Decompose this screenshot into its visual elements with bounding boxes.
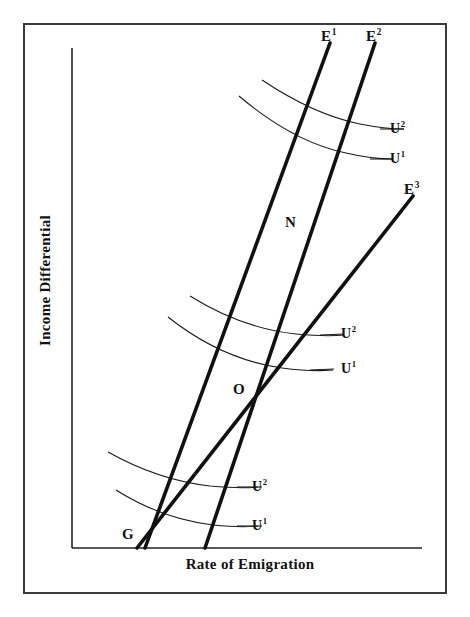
- label-e3: E3: [404, 181, 420, 197]
- label-e2: E2: [366, 28, 382, 44]
- indifference-curves-middle: [168, 296, 344, 371]
- label-e1: E1: [321, 28, 337, 44]
- label-point-o: O: [233, 382, 245, 397]
- label-u2-lower: U2: [252, 478, 267, 494]
- figure-container: Income Differential Rate of Emigration E…: [0, 0, 470, 617]
- label-u1-lower: U1: [252, 517, 267, 533]
- label-u2-upper: U2: [390, 120, 405, 136]
- curve-u1-middle: [168, 317, 333, 371]
- axis-lines: [72, 48, 422, 548]
- emigration-curves: [137, 43, 413, 548]
- label-point-g: G: [122, 527, 134, 542]
- diagram-canvas: [0, 0, 470, 617]
- x-axis-title: Rate of Emigration: [140, 556, 360, 573]
- label-u1-middle: U1: [341, 360, 356, 376]
- curve-u1-lower: [116, 490, 258, 527]
- label-u2-middle: U2: [341, 325, 356, 341]
- line-e3: [137, 196, 413, 548]
- line-e1: [145, 43, 330, 548]
- label-point-n: N: [285, 215, 296, 230]
- line-e2: [205, 43, 375, 548]
- label-u1-upper: U1: [390, 150, 405, 166]
- y-axis-title: Income Differential: [37, 191, 54, 371]
- curve-u2-upper: [262, 80, 404, 129]
- curve-u1-upper: [239, 96, 393, 159]
- indifference-curves-upper: [239, 80, 404, 159]
